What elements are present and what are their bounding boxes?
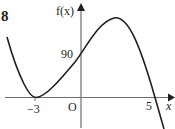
y-axis-label: f(x) — [56, 4, 74, 18]
x-min-point-label: −3 — [27, 102, 40, 116]
y-intercept-label: 90 — [61, 47, 73, 61]
x-axis-label: x — [165, 99, 172, 113]
x-root-label: 5 — [146, 99, 152, 113]
graph: 8 f(x) 90 −3 O 5 x — [0, 0, 175, 129]
y-axis-arrow-icon — [77, 3, 85, 11]
question-number: 8 — [1, 8, 9, 24]
origin-label: O — [68, 100, 77, 114]
